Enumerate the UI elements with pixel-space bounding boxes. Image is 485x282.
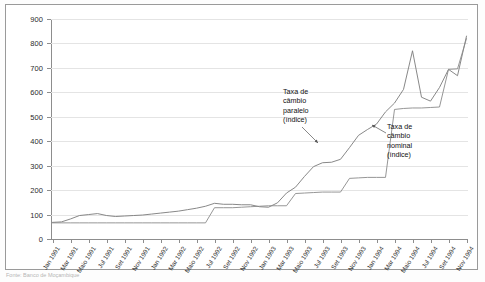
y-tick-label-100: 100 [17,210,43,219]
y-tick-label-600: 600 [17,88,43,97]
x-tick-label-17: Nov 1993 [346,245,366,272]
x-tick-label-18: Jan 1994 [365,245,385,271]
x-tick-label-12: Jan 1993 [257,245,277,271]
x-tick-label-23: Nov 1994 [454,245,474,272]
y-tick-label-200: 200 [17,186,43,195]
x-tick-label-21: Jul 1994 [420,245,439,269]
y-tick-label-800: 800 [17,39,43,48]
x-tick-label-0: Jan 1991 [41,245,61,271]
x-tick-label-6: Jan 1992 [149,245,169,271]
x-tick-label-5: Nov 1991 [130,245,150,272]
y-tick-label-400: 400 [17,137,43,146]
source-note: Fonte: Banco de Moçambique [6,272,79,278]
y-tick-label-900: 900 [17,15,43,24]
x-tick-label-15: Jul 1993 [312,245,331,269]
exchange-rate-index-figure: Jan 1991Mar 1991Maio 1991Jul 1991Set 199… [0,0,485,282]
y-tick-label-0: 0 [17,235,43,244]
annotation-taxa-cambio-paralelo: Taxa decâmbioparalelo(índice) [283,87,309,125]
taxa-cambio-paralelo-line-0: Taxa de [283,87,309,96]
x-tick-label-16: Set 1993 [329,245,348,270]
annotation-taxa-cambio-nominal: Taxa decâmbionominal(índice) [387,122,412,160]
x-tick-label-4: Set 1991 [113,245,132,270]
taxa-cambio-paralelo-line-2: paralelo [283,106,309,115]
y-tick-label-300: 300 [17,161,43,170]
x-tick-label-9: Jul 1992 [204,245,223,269]
x-tick-label-11: Nov 1992 [238,245,258,272]
taxa-cambio-paralelo-line-1: câmbio [283,96,309,105]
x-tick-label-10: Set 1992 [221,245,240,270]
y-tick-label-500: 500 [17,112,43,121]
taxa-cambio-nominal-line-3: (índice) [387,150,412,159]
taxa-cambio-nominal-line-2: nominal [387,141,412,150]
x-tick-label-22: Set 1994 [437,245,456,270]
taxa-cambio-nominal-line-1: câmbio [387,131,412,140]
y-tick-label-700: 700 [17,63,43,72]
taxa-cambio-nominal-line-0: Taxa de [387,122,412,131]
x-tick-label-3: Jul 1991 [96,245,115,269]
chart-frame: Jan 1991Mar 1991Maio 1991Jul 1991Set 199… [5,4,478,270]
taxa-cambio-paralelo-line-3: (índice) [283,115,309,124]
